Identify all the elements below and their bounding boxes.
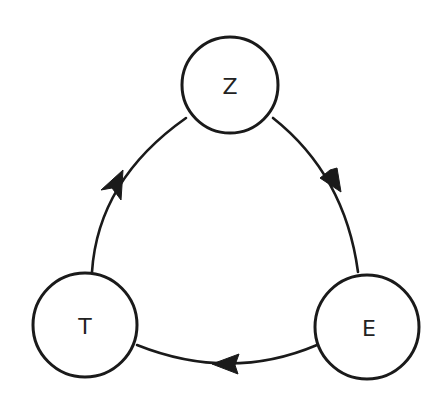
node-t-label: T [77,314,92,339]
node-e: E [315,275,419,379]
edge-z-to-e [273,118,358,272]
edge-e-to-t [137,345,317,374]
cycle-diagram: Z T E [0,0,445,410]
arrow-t-to-z-icon [101,170,123,200]
node-e-label: E [362,316,376,341]
node-t: T [33,273,137,377]
arrow-e-to-t-icon [212,354,239,374]
node-z: Z [182,37,278,133]
edge-t-to-z [92,118,186,272]
node-z-label: Z [222,74,237,99]
